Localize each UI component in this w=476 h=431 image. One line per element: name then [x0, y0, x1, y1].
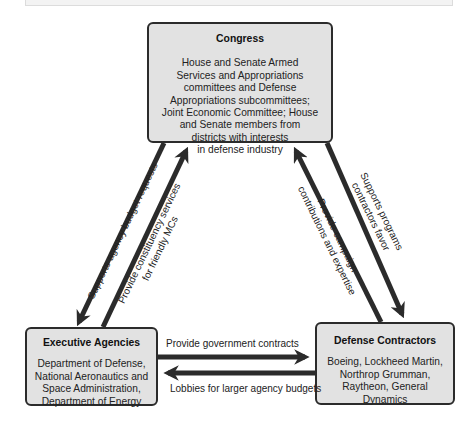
node-description: Boeing, Lockheed Martin, Northrop Grumma… — [317, 356, 453, 406]
node-line: Boeing, Lockheed Martin, — [321, 356, 449, 368]
node-line: Raytheon, General Dynamics — [321, 381, 449, 406]
node-line: and Senate members from — [153, 119, 327, 131]
node-executive-agencies: Executive Agencies Department of Defense… — [25, 327, 158, 406]
node-line: House and Senate Armed — [153, 57, 327, 69]
node-congress: Congress House and Senate Armed Services… — [147, 22, 333, 143]
node-title: Congress — [149, 33, 331, 45]
node-line: Department of Defense, — [31, 358, 152, 370]
node-description: Department of Defense, National Aeronaut… — [27, 358, 156, 408]
node-title: Defense Contractors — [317, 335, 453, 347]
node-line: districts with interests — [153, 132, 327, 144]
edge-label-lobbies-budgets: Lobbies for larger agency budgets — [170, 383, 321, 395]
node-line: Services and Appropriations — [153, 70, 327, 82]
node-line: Space Administration, — [31, 383, 152, 395]
edge-label-government-contracts: Provide government contracts — [166, 338, 299, 350]
node-line: National Aeronautics and — [31, 371, 152, 383]
node-line: Joint Economic Committee; House — [153, 107, 327, 119]
node-defense-contractors: Defense Contractors Boeing, Lockheed Mar… — [315, 322, 455, 405]
node-line: committees and Defense — [153, 82, 327, 94]
node-line: in defense industry — [153, 144, 327, 156]
node-line: Northrop Grumman, — [321, 369, 449, 381]
node-line: Department of Energy — [31, 396, 152, 408]
node-line: Appropriations subcommittees; — [153, 95, 327, 107]
node-title: Executive Agencies — [27, 337, 156, 349]
node-description: House and Senate Armed Services and Appr… — [149, 57, 331, 156]
